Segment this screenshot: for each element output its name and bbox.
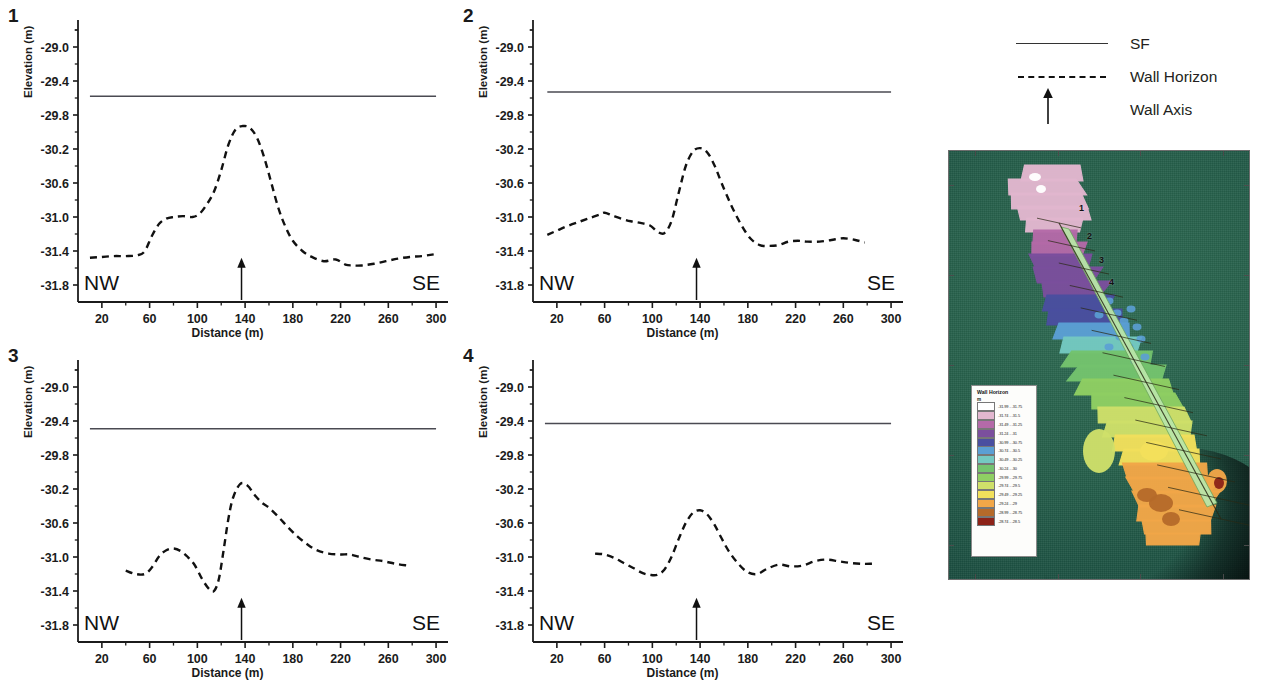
map-horizon-patch xyxy=(1036,185,1046,193)
map-transect-label: 4 xyxy=(1109,277,1114,287)
svg-text:-31.8: -31.8 xyxy=(41,279,70,293)
map-tick xyxy=(949,455,954,456)
map-horizon-patch xyxy=(1141,354,1150,361)
svg-text:-30.6: -30.6 xyxy=(496,177,525,191)
map-legend-class: -29.99 - -29.75 xyxy=(977,473,1032,481)
svg-text:-31.8: -31.8 xyxy=(496,619,525,633)
svg-text:180: 180 xyxy=(282,312,303,326)
dashed-line-icon xyxy=(1016,63,1108,91)
map-legend-range: -31.49 - -31.25 xyxy=(998,422,1022,427)
svg-text:-30.2: -30.2 xyxy=(496,143,525,157)
svg-text:300: 300 xyxy=(881,312,902,326)
svg-text:-31.0: -31.0 xyxy=(496,211,525,225)
map-legend-swatch xyxy=(977,499,995,508)
svg-text:-29.0: -29.0 xyxy=(41,381,70,395)
map-legend-class: -29.49 - -29.25 xyxy=(977,491,1032,499)
svg-text:60: 60 xyxy=(598,312,612,326)
map-transect-label: 3 xyxy=(1099,255,1104,265)
svg-text:260: 260 xyxy=(833,652,854,666)
up-arrow-glyph xyxy=(1038,86,1058,126)
direction-label-se: SE xyxy=(867,271,895,294)
svg-text:20: 20 xyxy=(550,652,564,666)
map-legend-swatch xyxy=(977,508,995,517)
svg-text:300: 300 xyxy=(426,652,447,666)
map-legend-class: -31.74 - -31.5 xyxy=(977,411,1032,419)
map-legend-range: -28.99 - -28.75 xyxy=(998,510,1022,515)
map-legend-class: -29.24 - -29 xyxy=(977,499,1032,507)
map-horizon-patch xyxy=(1105,344,1114,351)
map-legend-range: -30.99 - -30.75 xyxy=(998,440,1022,445)
map-horizon-patch xyxy=(1120,318,1129,325)
svg-text:300: 300 xyxy=(881,652,902,666)
legend-item-sf: SF xyxy=(1016,30,1150,58)
profile-panel-4: 4 Elevation (m) -29.0-29.4-29.8-30.2-30.… xyxy=(455,346,910,682)
svg-text:100: 100 xyxy=(642,652,663,666)
svg-text:-29.4: -29.4 xyxy=(496,75,525,89)
svg-text:-29.4: -29.4 xyxy=(41,75,70,89)
profile-panel-3: 3 Elevation (m) -29.0-29.4-29.8-30.2-30.… xyxy=(0,346,455,682)
map-legend-swatch xyxy=(977,446,995,455)
map-legend-swatch xyxy=(977,420,995,429)
map-legend-swatch xyxy=(977,429,995,438)
x-axis-label: Distance (m) xyxy=(455,666,910,680)
svg-text:-31.4: -31.4 xyxy=(496,585,525,599)
svg-text:20: 20 xyxy=(95,312,109,326)
map-legend-class: -29.74 - -29.5 xyxy=(977,482,1032,490)
map-legend-swatch xyxy=(977,411,995,420)
map-tick xyxy=(949,185,954,186)
x-axis-label: Distance (m) xyxy=(455,326,910,340)
svg-text:-29.8: -29.8 xyxy=(41,449,70,463)
profile-panel-1: 1 Elevation (m) -29.0-29.4-29.8-30.2-30.… xyxy=(0,6,455,342)
map-legend-class: -28.74 - -28.5 xyxy=(977,517,1032,525)
map-frame: 2330002335002340002345002330002335002340… xyxy=(948,150,1250,580)
figure-root: 1 Elevation (m) -29.0-29.4-29.8-30.2-30.… xyxy=(0,0,1268,683)
svg-text:300: 300 xyxy=(426,312,447,326)
svg-text:-31.0: -31.0 xyxy=(41,211,70,225)
direction-label-se: SE xyxy=(412,611,440,634)
svg-text:-30.2: -30.2 xyxy=(41,143,70,157)
map-legend-class: -30.49 - -30.25 xyxy=(977,455,1032,463)
legend-item-wall-axis: Wall Axis xyxy=(1016,96,1192,124)
map-legend-range: -30.49 - -30.25 xyxy=(998,457,1022,462)
map-tick xyxy=(1244,365,1249,366)
map-legend-swatch xyxy=(977,473,995,482)
wall-horizon-map: 2330002335002340002345002330002335002340… xyxy=(934,142,1262,590)
map-legend-swatch xyxy=(977,481,995,490)
svg-text:140: 140 xyxy=(690,312,711,326)
map-legend-range: -30.74 - -30.5 xyxy=(998,448,1020,453)
profile-plot-4: -29.0-29.4-29.8-30.2-30.6-31.0-31.4-31.8… xyxy=(455,346,910,682)
map-transect-label: 2 xyxy=(1087,231,1092,241)
svg-text:-31.4: -31.4 xyxy=(41,585,70,599)
svg-text:60: 60 xyxy=(143,312,157,326)
svg-text:140: 140 xyxy=(235,652,256,666)
direction-label-se: SE xyxy=(412,271,440,294)
map-legend-class-list: -31.99 - -31.75-31.74 - -31.5-31.49 - -3… xyxy=(977,403,1032,526)
svg-text:220: 220 xyxy=(330,652,351,666)
svg-text:180: 180 xyxy=(737,652,758,666)
svg-text:220: 220 xyxy=(785,312,806,326)
map-horizon-patch xyxy=(1137,488,1157,502)
legend-label-wall-horizon: Wall Horizon xyxy=(1130,68,1217,86)
up-arrow-icon xyxy=(1016,96,1108,124)
legend-label-wall-axis: Wall Axis xyxy=(1130,101,1192,119)
svg-text:-29.0: -29.0 xyxy=(496,41,525,55)
map-tick xyxy=(1244,275,1249,276)
map-tick xyxy=(1140,151,1141,156)
map-legend-swatch xyxy=(977,517,995,526)
map-legend-range: -29.24 - -29 xyxy=(998,501,1017,506)
map-legend-class: -31.99 - -31.75 xyxy=(977,403,1032,411)
map-legend-range: -28.74 - -28.5 xyxy=(998,519,1020,524)
svg-text:-29.4: -29.4 xyxy=(496,415,525,429)
profile-panel-2: 2 Elevation (m) -29.0-29.4-29.8-30.2-30.… xyxy=(455,6,910,342)
svg-text:220: 220 xyxy=(330,312,351,326)
map-horizon-patch xyxy=(1162,512,1180,526)
direction-label-nw: NW xyxy=(84,611,119,634)
svg-text:-29.8: -29.8 xyxy=(41,109,70,123)
map-tick xyxy=(949,365,954,366)
map-legend-class: -30.74 - -30.5 xyxy=(977,447,1032,455)
map-legend-swatch xyxy=(977,464,995,473)
direction-label-nw: NW xyxy=(539,611,574,634)
map-legend-range: -29.74 - -29.5 xyxy=(998,483,1020,488)
map-legend-class: -28.99 - -28.75 xyxy=(977,508,1032,516)
profile-plot-2: -29.0-29.4-29.8-30.2-30.6-31.0-31.4-31.8… xyxy=(455,6,910,342)
